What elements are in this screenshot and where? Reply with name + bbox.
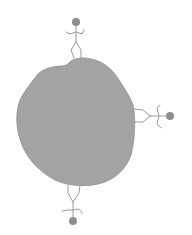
figure-head-icon (69, 217, 77, 225)
planet-blob (17, 58, 135, 186)
figure-head-icon (72, 18, 80, 26)
planet-diagram (0, 0, 192, 235)
stick-figure-top (66, 18, 84, 58)
stick-figure-right (134, 105, 174, 128)
figure-head-icon (166, 112, 174, 120)
stick-figure-bottom (62, 185, 82, 225)
